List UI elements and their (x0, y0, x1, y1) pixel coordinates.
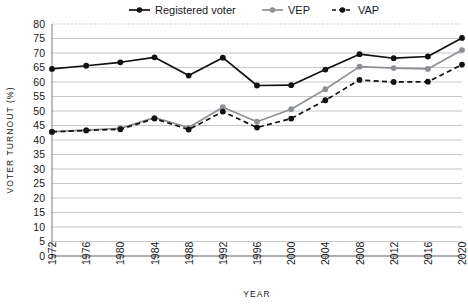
data-point-registered-voter-1980 (117, 59, 123, 65)
data-point-vap-2016 (425, 79, 431, 85)
data-point-vap-1996 (254, 125, 260, 131)
x-tick-label-1992: 1992 (217, 241, 229, 265)
data-point-registered-voter-2004 (322, 67, 328, 73)
y-tick-label-35: 35 (33, 148, 45, 160)
x-tick-label-1984: 1984 (149, 241, 161, 265)
y-tick-label-80: 80 (33, 18, 45, 30)
data-point-vap-2000 (288, 116, 294, 122)
x-tick-label-2012: 2012 (388, 241, 400, 265)
x-tick-label-2020: 2020 (456, 241, 468, 265)
chart-legend: Registered voter VEP VAP (129, 4, 379, 16)
data-point-registered-voter-1988 (186, 73, 192, 79)
series-registered-voter (49, 35, 465, 88)
data-point-registered-voter-1976 (83, 63, 89, 69)
legend-marker-vep (270, 7, 276, 13)
data-point-vap-2020 (459, 62, 465, 68)
y-tick-label-10: 10 (33, 221, 45, 233)
data-point-vap-2008 (357, 77, 363, 83)
data-point-registered-voter-1992 (220, 55, 226, 61)
legend-item-registered-voter: Registered voter (129, 4, 236, 16)
y-tick-label-20: 20 (33, 192, 45, 204)
y-tick-label-65: 65 (33, 61, 45, 73)
x-axis-title: YEAR (243, 289, 271, 299)
data-point-vap-2004 (322, 97, 328, 103)
data-point-vap-1980 (117, 126, 123, 132)
chart-canvas: Registered voter VEP VAP 807570656055504… (0, 0, 468, 306)
y-axis: 80757065605550454035302520151050 (33, 18, 462, 262)
y-tick-label-40: 40 (33, 134, 45, 146)
y-tick-label-55: 55 (33, 90, 45, 102)
legend-item-vep: VEP (262, 4, 310, 16)
y-tick-label-60: 60 (33, 76, 45, 88)
data-point-registered-voter-1972 (49, 66, 55, 72)
y-tick-label-25: 25 (33, 177, 45, 189)
y-tick-label-45: 45 (33, 119, 45, 131)
data-point-vap-1992 (220, 109, 226, 115)
x-tick-label-2016: 2016 (422, 241, 434, 265)
data-point-registered-voter-2016 (425, 54, 431, 60)
data-point-vep-2012 (391, 65, 397, 71)
data-point-vep-1996 (254, 119, 260, 125)
y-tick-label-15: 15 (33, 206, 45, 218)
legend-label-vap: VAP (358, 4, 379, 16)
y-tick-label-5: 5 (39, 235, 45, 247)
data-point-vep-2020 (459, 47, 465, 53)
data-point-registered-voter-1984 (152, 54, 158, 60)
legend-label-registered-voter: Registered voter (155, 4, 236, 16)
data-point-vep-2008 (357, 64, 363, 70)
data-point-vap-1972 (49, 129, 55, 135)
data-point-registered-voter-1996 (254, 83, 260, 89)
x-tick-label-1972: 1972 (46, 241, 58, 265)
y-tick-label-50: 50 (33, 105, 45, 117)
voter-turnout-chart: Registered voter VEP VAP 807570656055504… (0, 0, 468, 306)
legend-marker-vap (340, 7, 346, 13)
data-point-registered-voter-2008 (357, 51, 363, 57)
y-tick-label-30: 30 (33, 163, 45, 175)
legend-label-vep: VEP (288, 4, 310, 16)
data-point-registered-voter-2012 (391, 55, 397, 61)
y-tick-label-0: 0 (39, 250, 45, 262)
data-point-vap-1984 (152, 116, 158, 122)
legend-item-vap: VAP (332, 4, 379, 16)
y-tick-label-70: 70 (33, 47, 45, 59)
series-line-registered-voter (52, 38, 462, 86)
data-point-vep-2016 (425, 66, 431, 72)
series-vep (49, 47, 465, 134)
data-point-vap-1988 (186, 127, 192, 133)
x-axis: 1972197619801984198819921996200020042008… (46, 241, 468, 265)
y-tick-label-75: 75 (33, 32, 45, 44)
data-point-vap-1976 (83, 128, 89, 134)
chart-series (49, 35, 465, 135)
data-point-registered-voter-2000 (288, 82, 294, 88)
x-tick-label-1988: 1988 (183, 241, 195, 265)
x-tick-label-2008: 2008 (354, 241, 366, 265)
data-point-registered-voter-2020 (459, 35, 465, 41)
x-tick-label-2004: 2004 (319, 241, 331, 265)
data-point-vep-2004 (322, 86, 328, 92)
data-point-vep-2000 (288, 106, 294, 112)
legend-marker-registered-voter (137, 7, 143, 13)
x-tick-label-2000: 2000 (285, 241, 297, 265)
x-tick-label-1996: 1996 (251, 241, 263, 265)
x-tick-label-1980: 1980 (114, 241, 126, 265)
x-tick-label-1976: 1976 (80, 241, 92, 265)
data-point-vap-2012 (391, 79, 397, 85)
y-axis-title: VOTER TURNOUT (%) (5, 86, 15, 193)
